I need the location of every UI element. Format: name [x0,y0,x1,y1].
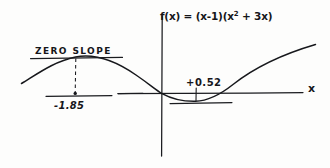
y-axis-line [162,16,163,156]
function-graph-figure: f(x) = (x-1)(x2 + 3x) ZERO SLOPE -1.85 +… [0,0,330,168]
function-expression-label: f(x) = (x-1)(x2 + 3x) [160,11,272,22]
maximum-dashed-leader [75,59,76,93]
maximum-point-marker [74,92,77,95]
x-at-minimum-label: +0.52 [186,78,222,88]
function-expression-suffix: + 3x) [239,10,273,22]
x-axis-line [118,93,303,94]
zero-slope-annotation: ZERO SLOPE [35,47,112,56]
minimum-baseline-segment [170,103,232,104]
zero-slope-underline [31,57,123,58]
maximum-baseline-segment [46,96,112,97]
x-axis-label: x [308,83,315,94]
graph-canvas [0,0,330,168]
function-expression-prefix: f(x) = (x-1)(x [160,10,234,22]
x-at-maximum-label: -1.85 [54,101,84,111]
